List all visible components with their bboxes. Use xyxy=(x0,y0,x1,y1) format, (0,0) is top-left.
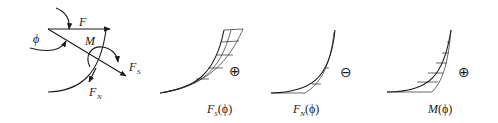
shear-envelope-outer xyxy=(160,29,243,93)
force-f-label: F xyxy=(78,15,87,29)
force-fs-label: F xyxy=(128,60,137,74)
arch-curve xyxy=(48,30,106,92)
normal-envelope xyxy=(271,32,334,93)
angle-arc-top-icon xyxy=(56,8,69,29)
shear-distribution-plot: ⊕ FS(ϕ) xyxy=(160,29,243,118)
shear-envelope-inner xyxy=(165,30,231,92)
shear-sign-plus-icon: ⊕ xyxy=(229,63,241,79)
moment-label: M(ϕ) xyxy=(427,102,452,116)
moment-distribution-plot: ⊕ M(ϕ) xyxy=(387,30,470,116)
force-fn-subscript: N xyxy=(96,93,102,101)
normal-label: FN(ϕ) xyxy=(292,102,319,118)
force-fs-subscript: S xyxy=(137,68,141,76)
normal-distribution-plot: ⊖ FN(ϕ) xyxy=(271,30,352,118)
free-body-diagram: F ϕ M F S F N xyxy=(30,8,141,101)
moment-envelope xyxy=(387,30,451,92)
shear-label: FS(ϕ) xyxy=(206,102,232,118)
angle-phi-label: ϕ xyxy=(33,32,39,46)
moment-arch-curve xyxy=(387,30,451,92)
moment-m-label: M xyxy=(84,34,96,48)
normal-arch-curve xyxy=(271,30,335,93)
normal-sign-minus-icon: ⊖ xyxy=(340,64,352,80)
moment-arc-icon xyxy=(88,47,118,67)
arch-force-diagram: F ϕ M F S F N ⊕ FS(ϕ) ⊖ FN(ϕ) ⊕ xyxy=(0,0,498,123)
force-fn-label: F xyxy=(88,85,97,99)
shear-hatch xyxy=(224,29,243,30)
moment-sign-plus-icon: ⊕ xyxy=(458,64,470,80)
